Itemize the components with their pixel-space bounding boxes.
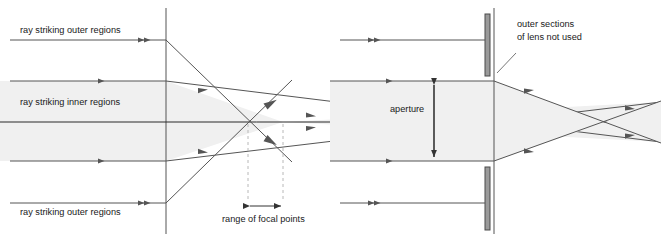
label-aperture: aperture <box>390 104 424 114</box>
left-bottom-inner-refracted-arrowhead-1 <box>198 149 208 154</box>
right-bottom-blocked-arrowhead-b <box>374 200 381 205</box>
left-incoming-beam-band <box>0 81 166 161</box>
right-top-blocked-arrowhead-a <box>368 37 375 42</box>
optics-diagram-svg: ray striking outer regions ray striking … <box>0 0 661 240</box>
top-aperture-stop <box>485 14 490 76</box>
left-top-outer-arrowhead-a <box>138 37 145 42</box>
optics-figure: ray striking outer regions ray striking … <box>0 0 661 240</box>
left-bottom-outer-arrowhead-a <box>138 200 145 205</box>
label-top-outer-ray: ray striking outer regions <box>20 25 121 35</box>
left-bottom-inner-refracted-arrowhead-2 <box>306 113 316 118</box>
right-bottom-blocked-arrowhead-a <box>368 200 375 205</box>
left-top-inner-refracted-arrowhead-2 <box>306 126 316 131</box>
right-converging-beam-band <box>494 81 605 161</box>
right-top-inner-refracted-arrowhead <box>524 89 534 94</box>
right-top-blocked-arrowhead-b <box>374 37 381 42</box>
left-bottom-outer-arrowhead-b <box>144 200 151 205</box>
label-outer-sections-line1: outer sections <box>517 19 575 29</box>
outer-sections-leader-line <box>497 53 516 73</box>
label-outer-sections-line2: of lens not used <box>517 32 582 42</box>
left-top-outer-arrowhead-b <box>144 37 151 42</box>
left-top-inner-refracted-arrowhead-1 <box>198 88 208 93</box>
right-bottom-inner-refracted-arrowhead <box>524 148 534 153</box>
label-focal-range: range of focal points <box>222 214 305 224</box>
label-inner-ray: ray striking inner regions <box>20 97 120 107</box>
label-bottom-outer-ray: ray striking outer regions <box>20 207 121 217</box>
right-incoming-beam-band <box>330 81 494 161</box>
bottom-aperture-stop <box>485 167 490 230</box>
right-panel-group: aperture outer sections of lens not used <box>330 8 661 234</box>
